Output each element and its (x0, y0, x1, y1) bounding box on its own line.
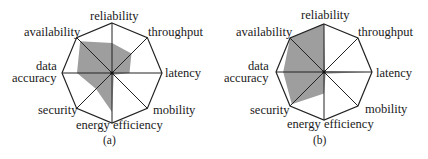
axis-label-throughput: throughput (148, 26, 203, 38)
radar-chart-a: reliability throughput latency mobility … (0, 0, 214, 159)
axis-spoke (324, 38, 358, 72)
axis-label-security: security (250, 104, 290, 116)
axis-label-reliability: reliability (301, 9, 350, 21)
axis-label-availability: availability (236, 26, 292, 38)
axis-label-latency: latency (165, 67, 201, 79)
caption-a: (a) (103, 134, 116, 146)
radar-chart-b: reliability throughput latency mobility … (214, 0, 428, 159)
axis-label-data-accuracy-2: accuracy (224, 72, 268, 84)
axis-label-security: security (38, 104, 78, 116)
axis-spoke (112, 73, 147, 108)
axis-label-energy-efficiency: energy efficiency (287, 118, 374, 130)
center-point (110, 71, 113, 74)
axis-label-throughput: throughput (358, 26, 413, 38)
axis-label-mobility: mobility (365, 103, 407, 115)
axis-spoke (324, 72, 358, 106)
axis-label-latency: latency (376, 67, 412, 79)
data-area (77, 41, 131, 112)
axis-label-reliability: reliability (90, 10, 139, 22)
caption-b: (b) (313, 134, 326, 146)
axis-label-mobility: mobility (153, 104, 195, 116)
axis-label-data-accuracy-2: accuracy (12, 72, 56, 84)
center-point (322, 70, 325, 73)
axis-label-availability: availability (24, 26, 80, 38)
axis-label-energy-efficiency: energy efficiency (76, 119, 163, 131)
